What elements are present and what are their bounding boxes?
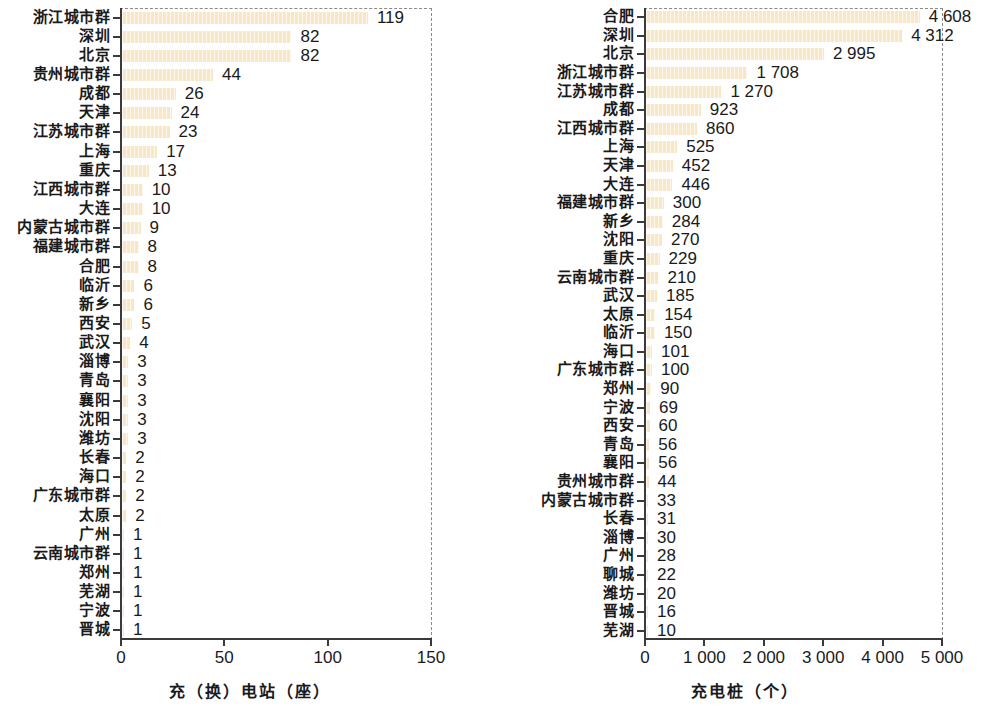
bar bbox=[122, 241, 139, 253]
category-label: 江西城市群 bbox=[557, 121, 635, 136]
y-axis-tick bbox=[637, 537, 644, 539]
bar-value-label: 82 bbox=[300, 47, 319, 64]
y-axis-tick bbox=[113, 266, 120, 268]
category-label: 北京 bbox=[603, 46, 634, 61]
x-axis-tick bbox=[430, 640, 432, 646]
bar-value-label: 100 bbox=[661, 361, 689, 378]
y-axis-tick bbox=[113, 170, 120, 172]
y-axis-tick bbox=[637, 518, 644, 520]
category-label: 广州 bbox=[79, 527, 110, 542]
bar bbox=[122, 337, 130, 349]
category-label: 青岛 bbox=[603, 437, 634, 452]
y-axis-tick bbox=[637, 109, 644, 111]
bar-value-label: 210 bbox=[667, 269, 695, 286]
category-label: 西安 bbox=[79, 316, 110, 331]
bar-value-label: 452 bbox=[682, 157, 710, 174]
bar-value-label: 1 270 bbox=[730, 83, 773, 100]
y-axis-tick bbox=[113, 323, 120, 325]
y-axis-tick bbox=[113, 419, 120, 421]
category-label: 福建城市群 bbox=[33, 239, 111, 254]
category-label: 大连 bbox=[603, 177, 634, 192]
bar bbox=[122, 586, 124, 598]
category-label: 北京 bbox=[79, 48, 110, 63]
bar-value-label: 4 312 bbox=[911, 27, 954, 44]
bar bbox=[122, 203, 143, 215]
bar bbox=[122, 88, 176, 100]
bar-value-label: 56 bbox=[658, 454, 677, 471]
bar-value-label: 60 bbox=[659, 417, 678, 434]
bar-value-label: 30 bbox=[657, 529, 676, 546]
y-axis-tick bbox=[637, 500, 644, 502]
category-label: 天津 bbox=[603, 158, 634, 173]
bar-value-label: 5 bbox=[141, 315, 150, 332]
bar bbox=[646, 86, 721, 98]
category-label: 成都 bbox=[79, 86, 110, 101]
bar-value-label: 6 bbox=[143, 296, 152, 313]
bar-value-label: 20 bbox=[657, 585, 676, 602]
bar-value-label: 3 bbox=[137, 430, 146, 447]
category-label: 广东城市群 bbox=[33, 488, 111, 503]
x-axis-tick bbox=[882, 640, 884, 646]
bar bbox=[122, 414, 128, 426]
y-axis-tick bbox=[637, 221, 644, 223]
bar bbox=[646, 588, 648, 600]
y-axis-tick bbox=[113, 151, 120, 153]
category-label: 贵州城市群 bbox=[33, 67, 111, 82]
category-label: 郑州 bbox=[603, 381, 634, 396]
category-label: 长春 bbox=[603, 511, 634, 526]
y-axis-tick bbox=[637, 630, 644, 632]
bar bbox=[646, 234, 662, 246]
plot-area-left: 浙江城市群119深圳82北京82贵州城市群44成都26天津24江苏城市群23上海… bbox=[120, 8, 432, 640]
bar bbox=[122, 395, 128, 407]
y-axis-tick bbox=[113, 572, 120, 574]
bar-value-label: 26 bbox=[185, 85, 204, 102]
y-axis-tick bbox=[113, 515, 120, 517]
x-axis-tick bbox=[120, 640, 122, 646]
bar-value-label: 525 bbox=[686, 138, 714, 155]
bar bbox=[646, 402, 650, 414]
category-label: 潍坊 bbox=[79, 431, 110, 446]
category-label: 大连 bbox=[79, 201, 110, 216]
category-label: 临沂 bbox=[603, 325, 634, 340]
bar bbox=[646, 123, 697, 135]
bar bbox=[122, 261, 139, 273]
x-axis-tick bbox=[223, 640, 225, 646]
bar bbox=[646, 606, 648, 618]
bar bbox=[122, 471, 126, 483]
bar bbox=[646, 439, 649, 451]
category-label: 武汉 bbox=[79, 335, 110, 350]
bar-value-label: 3 bbox=[137, 372, 146, 389]
x-axis-tick-label: 2 000 bbox=[743, 649, 786, 666]
bar bbox=[122, 299, 134, 311]
y-axis-tick bbox=[113, 361, 120, 363]
bar-value-label: 10 bbox=[152, 200, 171, 217]
y-axis-tick bbox=[637, 351, 644, 353]
bar-value-label: 101 bbox=[661, 343, 689, 360]
bar bbox=[122, 605, 124, 617]
y-axis-tick bbox=[113, 553, 120, 555]
category-label: 成都 bbox=[603, 102, 634, 117]
bar-value-label: 90 bbox=[660, 380, 679, 397]
y-axis-tick bbox=[637, 91, 644, 93]
bar-value-label: 22 bbox=[657, 566, 676, 583]
y-axis-tick bbox=[113, 342, 120, 344]
bar-value-label: 28 bbox=[657, 547, 676, 564]
bar-value-label: 150 bbox=[664, 324, 692, 341]
bar-value-label: 24 bbox=[181, 104, 200, 121]
bar bbox=[122, 318, 132, 330]
bar bbox=[646, 420, 650, 432]
chart-panel-charging-stations: 浙江城市群119深圳82北京82贵州城市群44成都26天津24江苏城市群23上海… bbox=[0, 0, 500, 706]
y-axis-tick bbox=[637, 277, 644, 279]
bar-value-label: 1 bbox=[133, 526, 142, 543]
plot-area-right: 合肥4 608深圳4 312北京2 995浙江城市群1 708江苏城市群1 27… bbox=[644, 8, 943, 640]
y-axis-tick bbox=[113, 131, 120, 133]
bar-value-label: 446 bbox=[681, 176, 709, 193]
x-axis-tick-label: 5 000 bbox=[921, 649, 964, 666]
bar-value-label: 2 bbox=[135, 468, 144, 485]
bar bbox=[122, 280, 134, 292]
bar bbox=[122, 146, 157, 158]
category-label: 江西城市群 bbox=[33, 182, 111, 197]
category-label: 天津 bbox=[79, 105, 110, 120]
category-label: 临沂 bbox=[79, 278, 110, 293]
bar-value-label: 229 bbox=[669, 250, 697, 267]
